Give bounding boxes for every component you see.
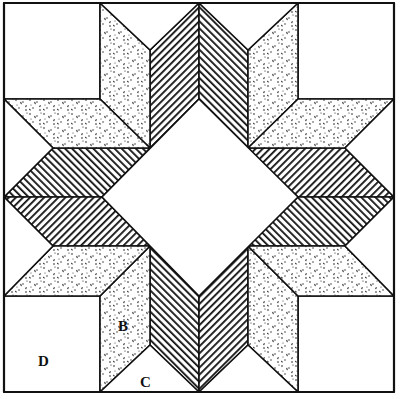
corner-square-bottom-left	[4, 296, 100, 392]
corner-square-top-right	[298, 3, 394, 99]
quilt-block-diagram: B C D	[0, 0, 400, 399]
corner-square-bottom-right	[298, 296, 394, 392]
corner-square-top-left	[4, 3, 100, 99]
label-b: B	[118, 318, 128, 334]
label-d: D	[38, 353, 49, 369]
label-c: C	[140, 374, 151, 390]
